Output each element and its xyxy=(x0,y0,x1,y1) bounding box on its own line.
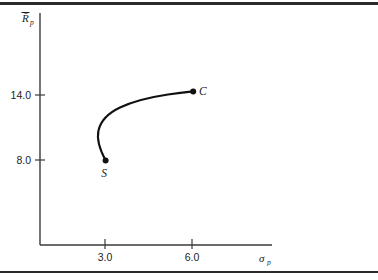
y-tick-label-14: 14.0 xyxy=(11,89,32,101)
x-tick-label-3: 3.0 xyxy=(98,251,113,263)
data-point-c-label: C xyxy=(199,85,207,97)
y-axis-title-subscript: p xyxy=(29,18,34,27)
data-point-s-marker xyxy=(103,157,109,163)
bottom-horizontal-rule xyxy=(0,271,378,273)
y-axis-title: R̄ p xyxy=(21,12,34,27)
x-axis-title-subscript: p xyxy=(266,258,271,266)
data-point-s-label: S xyxy=(101,167,107,179)
frontier-curve xyxy=(98,91,193,160)
figure-root: 14.0 8.0 3.0 6.0 R̄ p σ p S C xyxy=(0,0,378,280)
x-tick-label-6: 6.0 xyxy=(185,251,200,263)
y-axis-title-symbol: R̄ xyxy=(21,12,29,24)
x-axis-title-symbol: σ xyxy=(259,252,265,264)
chart-plot-area: 14.0 8.0 3.0 6.0 R̄ p σ p S C xyxy=(0,8,378,266)
data-point-c-marker xyxy=(190,88,196,94)
x-axis-title: σ p xyxy=(259,252,271,266)
y-tick-label-8: 8.0 xyxy=(16,154,31,166)
chart-svg: 14.0 8.0 3.0 6.0 R̄ p σ p S C xyxy=(0,8,378,266)
top-horizontal-rule xyxy=(0,2,378,5)
